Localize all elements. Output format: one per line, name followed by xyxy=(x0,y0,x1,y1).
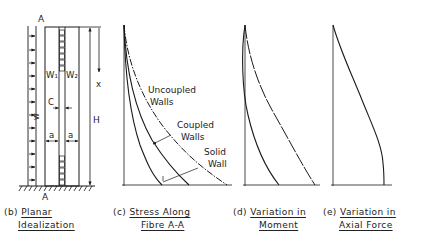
caption-c-label: (c) xyxy=(113,207,126,217)
panel-d-moment-plot xyxy=(243,25,320,186)
height-dimension xyxy=(79,27,101,185)
caption-d: (d) Variation in Moment xyxy=(233,206,306,232)
label-solid-line2: Wall xyxy=(208,159,227,169)
curve-moment-outer xyxy=(245,25,315,185)
panel-c-legend-labels: Uncoupled Walls Coupled Walls Solid Wall xyxy=(148,85,227,169)
panel-b-planar-idealization xyxy=(19,26,101,191)
label-solid-line1: Solid xyxy=(204,147,226,157)
depth-label-x: x xyxy=(96,79,101,89)
label-coupled-line1: Coupled xyxy=(177,120,214,130)
lateral-load-strip xyxy=(28,26,36,186)
connection-label-c: C xyxy=(48,97,54,107)
caption-e-title-line2: Axial Force xyxy=(339,220,393,230)
caption-d-title-line2: Moment xyxy=(259,220,298,230)
label-uncoupled-line1: Uncoupled xyxy=(148,85,196,95)
leader-solid xyxy=(163,168,198,182)
panel-e-axial-force-plot xyxy=(331,25,392,186)
width-label-a-right: a xyxy=(68,130,73,140)
label-uncoupled-line2: Walls xyxy=(150,97,174,107)
caption-d-label: (d) xyxy=(233,207,247,217)
width-label-a-left: a xyxy=(49,130,54,140)
caption-e: (e) Variation in Axial Force xyxy=(323,206,396,232)
caption-e-title-line1: Variation in xyxy=(340,207,396,217)
connecting-laminae xyxy=(60,30,65,185)
curve-moment-inner xyxy=(243,25,279,185)
label-coupled-line2: Walls xyxy=(181,132,205,142)
caption-c-title-line2: Fibre A-A xyxy=(141,220,184,230)
height-label-h: H xyxy=(93,115,100,125)
wall-label-w2: W₂ xyxy=(66,70,78,80)
caption-e-label: (e) xyxy=(323,207,337,217)
caption-d-title-line1: Variation in xyxy=(250,207,306,217)
caption-c-title-line1: Stress Along xyxy=(129,207,190,217)
wall-label-w1: W₁ xyxy=(46,70,58,80)
leader-coupled xyxy=(153,135,171,144)
caption-c: (c) Stress Along Fibre A-A xyxy=(113,206,190,232)
caption-b-label: (b) xyxy=(4,207,18,217)
caption-b-title-line1: Planar xyxy=(21,207,52,217)
caption-b: (b) Planar Idealization xyxy=(4,206,75,232)
ground-hatch xyxy=(19,186,95,191)
caption-b-title-line2: Idealization xyxy=(18,220,75,230)
curve-axial-force xyxy=(333,25,384,185)
section-label-bottom: A xyxy=(42,192,49,202)
load-label-w: w xyxy=(31,113,41,120)
section-label-top: A xyxy=(38,14,45,24)
